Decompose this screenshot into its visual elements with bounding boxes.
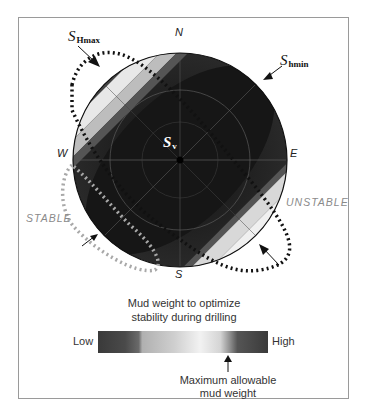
unstable-arrow — [259, 244, 279, 265]
max-mud-weight-line2: mud weight — [178, 387, 278, 400]
sv-label: Sv — [163, 134, 177, 151]
legend-title-line2: stability during drilling — [118, 310, 250, 324]
legend-title: Mud weight to optimize stability during … — [118, 296, 250, 324]
stable-label: STABLE — [26, 212, 72, 224]
shmin-label: Shmin — [280, 52, 309, 69]
max-mud-weight-arrow — [224, 355, 232, 372]
east-label: E — [290, 147, 297, 159]
shmax-arrow — [78, 46, 100, 67]
west-label: W — [57, 147, 67, 159]
legend-title-line1: Mud weight to optimize — [118, 296, 250, 310]
stereonet-fill — [10, 0, 355, 335]
sv-symbol: S — [163, 134, 171, 150]
sv-point — [177, 157, 184, 164]
shmax-subscript: Hmax — [77, 35, 101, 45]
max-mud-weight-label: Maximum allowable mud weight — [178, 374, 278, 400]
south-label: S — [175, 268, 182, 280]
legend-low-label: Low — [73, 335, 93, 347]
shmax-symbol: S — [68, 28, 76, 44]
shmin-symbol: S — [280, 52, 288, 68]
north-label: N — [175, 26, 183, 38]
sv-subscript: v — [172, 141, 177, 151]
shmin-subscript: hmin — [289, 59, 309, 69]
max-mud-weight-line1: Maximum allowable — [178, 374, 278, 387]
shmax-label: SHmax — [68, 28, 100, 45]
mud-weight-colorbar — [98, 331, 268, 353]
unstable-label: UNSTABLE — [286, 196, 349, 208]
legend-high-label: High — [272, 335, 295, 347]
